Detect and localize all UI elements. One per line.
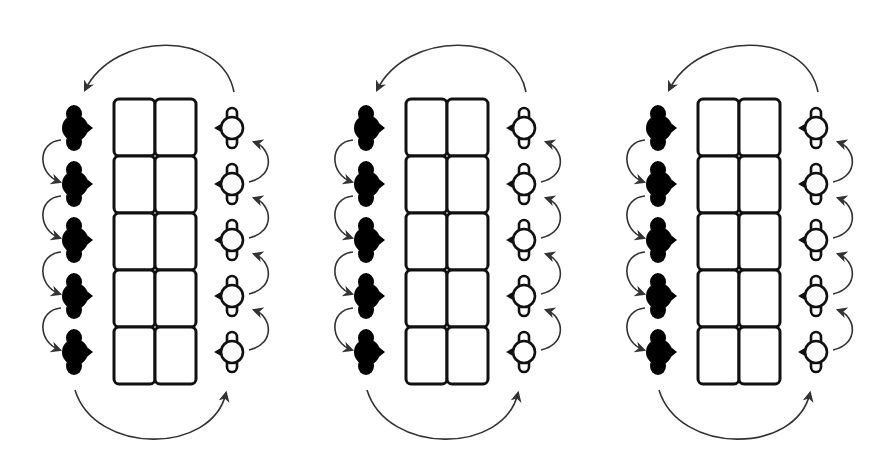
hollow-token-icon	[800, 108, 827, 148]
black-token-icon	[62, 217, 93, 263]
grid-cell	[739, 213, 780, 270]
down-arrow-icon	[627, 196, 645, 238]
black-token-icon	[646, 161, 677, 207]
up-arrow-icon	[249, 198, 268, 238]
black-token-icon	[354, 217, 385, 263]
black-token-icon	[646, 105, 677, 151]
black-token-icon	[646, 329, 677, 375]
up-arrow-icon	[833, 310, 852, 350]
down-arrow-icon	[43, 196, 61, 238]
grid-cell	[739, 156, 780, 213]
down-arrow-icon	[627, 252, 645, 294]
grid-cell	[155, 156, 196, 213]
down-arrow-icon	[335, 308, 353, 350]
left-token-column	[62, 105, 93, 375]
grid-cell	[698, 327, 739, 384]
black-token-icon	[62, 273, 93, 319]
black-token-icon	[354, 161, 385, 207]
hollow-token-icon	[800, 220, 827, 260]
top-transfer-arrow-icon	[377, 45, 526, 92]
black-token-icon	[354, 329, 385, 375]
hollow-token-icon	[508, 220, 535, 260]
left-down-arrows	[43, 140, 61, 350]
hollow-token-icon	[216, 332, 243, 372]
grid-cell	[155, 270, 196, 327]
grid-5x2	[698, 99, 780, 384]
up-arrow-icon	[541, 142, 560, 182]
black-token-icon	[62, 105, 93, 151]
diagram-panel-2	[335, 45, 561, 439]
grid-cell	[447, 327, 488, 384]
left-down-arrows	[627, 140, 645, 350]
grid-cell	[406, 156, 447, 213]
grid-cell	[155, 213, 196, 270]
right-up-arrows	[249, 142, 268, 350]
down-arrow-icon	[627, 140, 645, 182]
left-token-column	[646, 105, 677, 375]
grid-cell	[698, 99, 739, 156]
bottom-transfer-arrow-icon	[75, 390, 226, 439]
grid-cell	[447, 99, 488, 156]
black-token-icon	[646, 273, 677, 319]
hollow-token-icon	[216, 108, 243, 148]
black-token-icon	[62, 329, 93, 375]
down-arrow-icon	[43, 140, 61, 182]
grid-cell	[406, 213, 447, 270]
right-token-column	[800, 108, 827, 372]
up-arrow-icon	[833, 142, 852, 182]
grid-cell	[739, 270, 780, 327]
down-arrow-icon	[335, 140, 353, 182]
grid-5x2	[114, 99, 196, 384]
top-transfer-arrow-icon	[669, 45, 818, 92]
hollow-token-icon	[508, 164, 535, 204]
grid-cell	[114, 213, 155, 270]
down-arrow-icon	[43, 252, 61, 294]
up-arrow-icon	[249, 142, 268, 182]
grid-cell	[739, 99, 780, 156]
grid-cell	[114, 270, 155, 327]
hollow-token-icon	[508, 276, 535, 316]
up-arrow-icon	[833, 254, 852, 294]
grid-cell	[406, 99, 447, 156]
up-arrow-icon	[541, 198, 560, 238]
down-arrow-icon	[627, 308, 645, 350]
left-down-arrows	[335, 140, 353, 350]
up-arrow-icon	[541, 310, 560, 350]
up-arrow-icon	[249, 310, 268, 350]
circulation-diagram	[0, 0, 891, 473]
black-token-icon	[354, 273, 385, 319]
grid-cell	[114, 327, 155, 384]
bottom-transfer-arrow-icon	[659, 390, 810, 439]
right-token-column	[216, 108, 243, 372]
top-transfer-arrow-icon	[85, 45, 234, 92]
grid-cell	[698, 270, 739, 327]
down-arrow-icon	[335, 196, 353, 238]
hollow-token-icon	[216, 276, 243, 316]
grid-cell	[698, 156, 739, 213]
panels-group	[43, 45, 853, 439]
black-token-icon	[646, 217, 677, 263]
left-token-column	[354, 105, 385, 375]
grid-cell	[114, 99, 155, 156]
grid-cell	[739, 327, 780, 384]
hollow-token-icon	[508, 108, 535, 148]
up-arrow-icon	[541, 254, 560, 294]
grid-cell	[406, 327, 447, 384]
grid-cell	[406, 270, 447, 327]
bottom-transfer-arrow-icon	[367, 390, 518, 439]
hollow-token-icon	[800, 276, 827, 316]
grid-cell	[447, 213, 488, 270]
right-token-column	[508, 108, 535, 372]
hollow-token-icon	[216, 220, 243, 260]
up-arrow-icon	[249, 254, 268, 294]
hollow-token-icon	[216, 164, 243, 204]
hollow-token-icon	[800, 164, 827, 204]
grid-cell	[447, 156, 488, 213]
diagram-canvas	[0, 0, 891, 473]
grid-cell	[114, 156, 155, 213]
diagram-panel-1	[43, 45, 269, 439]
up-arrow-icon	[833, 198, 852, 238]
right-up-arrows	[833, 142, 852, 350]
down-arrow-icon	[335, 252, 353, 294]
grid-cell	[155, 327, 196, 384]
